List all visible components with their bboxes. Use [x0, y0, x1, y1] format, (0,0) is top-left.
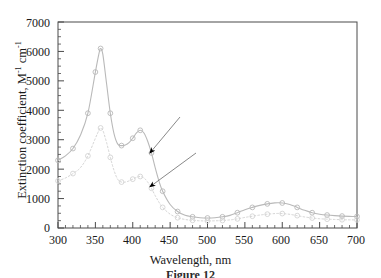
figure-container: Extinction coefficient, M-1 cm-1 Wavelen… — [0, 0, 381, 278]
plot-area — [0, 0, 381, 278]
